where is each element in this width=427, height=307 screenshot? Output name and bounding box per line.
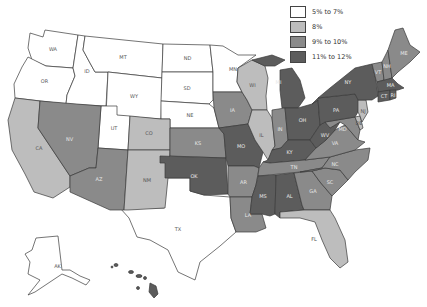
state-label-wy: WY: [130, 93, 139, 99]
legend-item-11-12: 11% to 12%: [290, 49, 352, 64]
state-label-vt: VT: [375, 69, 382, 75]
state-label-ny: NY: [345, 79, 353, 85]
state-label-ca: CA: [36, 145, 43, 151]
state-label-va: VA: [332, 140, 339, 146]
state-label-sc: SC: [327, 179, 334, 185]
state-label-nc: NC: [331, 161, 339, 167]
state-label-ne: NE: [187, 112, 194, 118]
state-label-nv: NV: [66, 136, 74, 142]
legend-item-9-10: 9% to 10%: [290, 34, 352, 49]
legend-item-5-7: 5% to 7%: [290, 4, 352, 19]
state-label-il: IL: [259, 132, 263, 138]
legend-swatch: [290, 21, 306, 33]
legend-swatch: [290, 51, 306, 63]
legend-label: 11% to 12%: [312, 53, 352, 61]
legend: 5% to 7% 8% 9% to 10% 11% to 12%: [290, 4, 352, 64]
state-label-la: LA: [245, 212, 252, 218]
state-label-ma: MA: [387, 82, 395, 88]
state-label-mo: MO: [237, 143, 245, 149]
state-label-sd: SD: [183, 85, 190, 91]
state-label-fl: FL: [311, 236, 317, 242]
state-hi: [111, 264, 158, 299]
state-label-nj: NJ: [360, 108, 365, 114]
us-choropleth-map: WAORIDMTWYNDSDNEMNUTTXAKCACONMWIILFLNJDE…: [0, 0, 427, 307]
state-label-ms: MS: [259, 193, 267, 199]
state-label-tn: TN: [290, 164, 298, 170]
state-label-mi: MI: [276, 79, 282, 85]
legend-item-8: 8%: [290, 19, 352, 34]
state-label-me: ME: [400, 50, 407, 56]
state-label-mn: MN: [229, 66, 237, 72]
state-label-ia: IA: [230, 107, 235, 113]
state-label-wv: WV: [321, 132, 330, 138]
legend-label: 8%: [312, 23, 322, 31]
legend-swatch: [290, 36, 306, 48]
state-label-ut: UT: [111, 125, 119, 131]
state-label-al: AL: [286, 193, 292, 199]
state-label-pa: PA: [333, 107, 340, 113]
state-label-ky: KY: [286, 149, 293, 155]
state-label-tx: TX: [174, 226, 182, 232]
state-label-co: CO: [145, 130, 152, 136]
state-label-id: ID: [84, 68, 89, 74]
legend-label: 9% to 10%: [312, 38, 347, 46]
state-label-de: DE: [355, 120, 362, 126]
state-label-ga: GA: [309, 188, 317, 194]
state-label-az: AZ: [96, 176, 103, 182]
state-label-ks: KS: [195, 140, 201, 146]
state-label-mt: MT: [119, 54, 127, 60]
state-label-nd: ND: [184, 55, 192, 61]
state-label-or: OR: [41, 78, 49, 84]
legend-swatch: [290, 6, 306, 18]
state-label-in: IN: [277, 126, 282, 132]
state-label-ak: AK: [54, 263, 61, 269]
state-label-md: MD: [338, 126, 346, 132]
legend-label: 5% to 7%: [312, 8, 343, 16]
state-label-ct: CT: [381, 93, 388, 99]
state-label-oh: OH: [299, 117, 307, 123]
state-label-ok: OK: [190, 173, 198, 179]
state-label-wa: WA: [49, 46, 58, 52]
state-label-ri: RI: [391, 92, 396, 98]
state-label-nh: NH: [383, 63, 391, 69]
state-label-ar: AR: [240, 179, 247, 185]
state-label-nm: NM: [143, 177, 151, 183]
state-label-wi: WI: [249, 82, 255, 88]
